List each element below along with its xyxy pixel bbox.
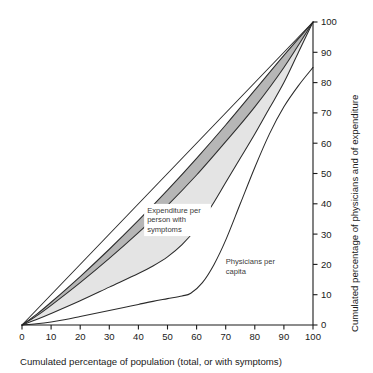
x-axis-ticks: 0102030405060708090100 [19,325,321,342]
x-tick-label: 60 [191,331,202,342]
y-tick-label: 80 [321,77,332,88]
y-tick-label: 20 [321,259,332,270]
y-tick-label: 100 [321,16,337,27]
x-tick-label: 90 [279,331,290,342]
y-tick-label: 0 [321,319,326,330]
y-tick-label: 90 [321,47,332,58]
x-tick-label: 20 [75,331,86,342]
y-tick-label: 50 [321,168,332,179]
chart-container: 0102030405060708090100 01020304050607080… [0,0,373,373]
y-tick-label: 70 [321,107,332,118]
physicians-label-line: Physicians per [226,257,276,266]
x-axis-title: Cumulated percentage of population (tota… [20,356,282,367]
expenditure-label: Expenditure perperson withsymptoms [144,204,211,236]
x-tick-label: 50 [162,331,173,342]
x-tick-label: 0 [19,331,24,342]
x-tick-label: 80 [250,331,261,342]
y-tick-label: 60 [321,138,332,149]
y-tick-label: 30 [321,229,332,240]
series-line [22,22,313,325]
x-tick-label: 100 [305,331,321,342]
physicians-label-line: capita [226,267,247,276]
y-axis-ticks: 0102030405060708090100 [313,16,337,330]
y-tick-label: 40 [321,198,332,209]
expenditure-label-line: person with [147,215,186,224]
expenditure-label-line: symptoms [147,225,182,234]
x-tick-label: 30 [104,331,115,342]
physicians-label: Physicians percapita [223,255,286,278]
curve-layer [22,22,313,325]
y-axis-title: Cumulated percentage of physicians and o… [349,95,360,332]
expenditure-label-line: Expenditure per [147,206,201,215]
x-tick-label: 40 [133,331,144,342]
x-tick-label: 70 [220,331,231,342]
lorenz-curve-chart: 0102030405060708090100 01020304050607080… [0,0,373,373]
y-tick-label: 10 [321,289,332,300]
x-tick-label: 10 [46,331,57,342]
